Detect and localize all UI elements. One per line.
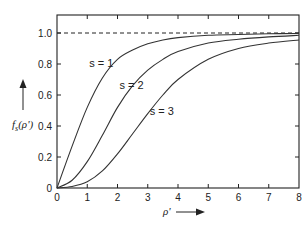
curve-label-s-2: s = 2 (120, 79, 144, 91)
x-tick-label: 1 (84, 192, 90, 203)
y-tick-label: 0.4 (38, 121, 52, 132)
curve-label-s-3: s = 3 (150, 105, 174, 117)
y-tick-label: 0.6 (38, 90, 52, 101)
y-tick-label: 0 (46, 183, 52, 194)
x-tick-label: 2 (115, 192, 121, 203)
x-axis-label: ρ' (162, 205, 205, 217)
y-tick-label: 1.0 (38, 28, 52, 39)
axis-ticks (57, 15, 299, 188)
y-axis-title: fs(ρ') (12, 118, 33, 133)
x-tick-label: 7 (266, 192, 272, 203)
chart: 01234567800.20.40.60.81.0 s = 1s = 2s = … (0, 0, 307, 227)
plot-frame (57, 15, 299, 188)
y-tick-label: 0.2 (38, 152, 52, 163)
arrow-right-icon (196, 209, 205, 216)
y-axis-label: fs(ρ') (12, 79, 33, 133)
plot-border (57, 15, 299, 188)
x-axis-title: ρ' (162, 205, 171, 217)
curve-label-s-1: s = 1 (89, 57, 113, 69)
x-tick-label: 4 (175, 192, 181, 203)
x-tick-label: 6 (236, 192, 242, 203)
arrow-up-icon (20, 79, 27, 88)
x-tick-label: 3 (145, 192, 151, 203)
curve-labels: s = 1s = 2s = 3 (89, 57, 174, 117)
x-tick-label: 8 (296, 192, 302, 203)
y-tick-label: 0.8 (38, 59, 52, 70)
x-tick-label: 5 (205, 192, 211, 203)
x-tick-label: 0 (54, 192, 60, 203)
